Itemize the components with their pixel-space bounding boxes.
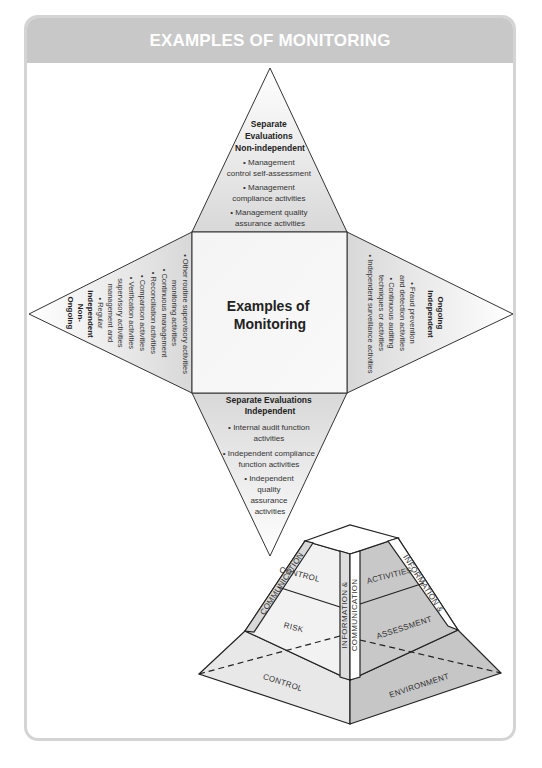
right-item-1: • Fraud prevention — [408, 282, 417, 343]
center-title-2: Monitoring — [234, 316, 306, 332]
bottom-item-3d: activities — [255, 507, 286, 516]
right-triangle: Ongoing Independent • Fraud prevention a… — [347, 232, 513, 393]
top-heading-1: Separate — [251, 119, 287, 129]
svg-text:Ongoing Independent: Ongoing Independent — [426, 290, 445, 338]
left-item-7: • Continuous management — [160, 269, 169, 358]
left-item-2: management and — [106, 284, 115, 342]
monitoring-diagram: Separate Evaluations Non-independent • M… — [0, 0, 542, 768]
left-item-8: monitoring activities — [170, 280, 179, 346]
left-item-6: • Reconciliation activities — [149, 272, 158, 354]
bottom-item-1b: activities — [254, 434, 285, 443]
top-item-2a: • Management — [243, 183, 295, 192]
left-item-3: supervisory activities — [116, 278, 125, 347]
left-item-4: • Verification activities — [127, 277, 136, 349]
right-item-2: and detection activities — [398, 275, 407, 351]
top-item-1a: • Management — [243, 158, 295, 167]
top-item-3b: assurance activities — [235, 219, 305, 228]
left-heading-3: independent — [86, 290, 95, 338]
center-title-1: Examples of — [227, 298, 310, 314]
right-heading-2: Independent — [426, 290, 435, 338]
right-item-3: • Continuous auditing — [387, 277, 396, 348]
bottom-item-3a: • Independent — [244, 474, 294, 483]
bottom-item-3b: quality — [257, 485, 280, 494]
top-heading-3: Non-independent — [235, 143, 305, 153]
bottom-heading-1: Separate Evaluations — [226, 395, 312, 405]
left-heading-2: Non- — [76, 304, 85, 323]
top-item-3a: • Management quality — [230, 208, 307, 217]
center-square: Examples of Monitoring — [192, 232, 347, 393]
top-item-2b: compliance activities — [232, 194, 305, 203]
top-item-1b: control self-assessment — [227, 169, 312, 178]
left-heading-1: Ongoing — [66, 296, 75, 329]
bottom-item-1a: • Internal audit function — [228, 423, 310, 432]
bottom-item-2a: • Independent compliance — [223, 449, 316, 458]
left-triangle: Ongoing Non- independent • Regular manag… — [29, 232, 192, 393]
bottom-item-2b: function activities — [238, 460, 299, 469]
right-item-5: • Independent surveillance activities — [366, 255, 375, 374]
right-item-4: techniques or activities — [377, 275, 386, 351]
left-item-9: • Other routine supervisory activities — [181, 254, 190, 374]
label-center-information: INFORMATION & — [340, 581, 349, 648]
label-center-communication: COMMUNICATION — [350, 579, 359, 652]
right-heading-1: Ongoing — [436, 296, 445, 329]
bottom-heading-2: Independent — [245, 406, 296, 416]
left-item-5: • Comparison activities — [138, 275, 147, 351]
top-heading-2: Evaluations — [245, 131, 293, 141]
bottom-item-3c: assurance — [250, 496, 287, 505]
top-triangle: Separate Evaluations Non-independent • M… — [192, 68, 347, 232]
left-item-1: • Regular — [96, 297, 105, 328]
bottom-triangle: Separate Evaluations Independent • Inter… — [192, 393, 347, 556]
